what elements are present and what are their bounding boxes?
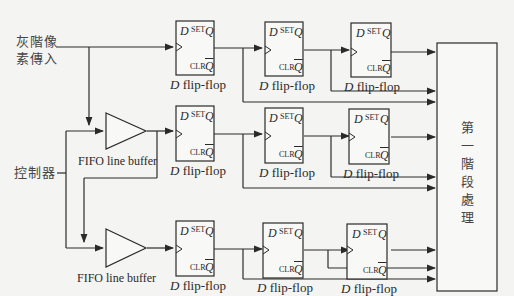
pin-clr: CLR xyxy=(279,151,295,159)
flipflop-r1-c3-label: D flip-flop xyxy=(344,80,400,93)
pin-d: D xyxy=(180,225,189,237)
flipflop-r3-c1: D SET Q CLR Q xyxy=(176,221,214,276)
pin-qbar: Q xyxy=(380,149,389,161)
pin-q: Q xyxy=(205,110,214,122)
flipflop-r2-c3: D SET Q CLR Q xyxy=(350,109,388,164)
pin-qbar: Q xyxy=(294,263,303,275)
flipflop-r1-c2: D SET Q CLR Q xyxy=(265,22,303,77)
pin-set: SET xyxy=(191,226,205,234)
pin-qbar: Q xyxy=(378,264,387,276)
pin-set: SET xyxy=(191,26,205,34)
fifo-buffer-2-shape xyxy=(106,229,146,267)
pin-set: SET xyxy=(363,229,377,237)
pin-d: D xyxy=(268,227,277,239)
pin-d: D xyxy=(352,228,361,240)
pin-qbar: Q xyxy=(382,62,391,74)
controller-label: 控制器 xyxy=(14,166,56,179)
pin-q: Q xyxy=(382,27,391,39)
fifo-buffer-1-shape xyxy=(106,113,146,149)
fifo-buffer-1-label: FIFO line buffer xyxy=(78,155,157,167)
flipflop-r2-c2-label: D flip-flop xyxy=(259,166,315,179)
flipflop-r1-c1-label: D flip-flop xyxy=(170,78,226,91)
pin-set: SET xyxy=(280,113,294,121)
flipflop-r3-c2: D SET Q CLR Q xyxy=(264,223,302,278)
flipflop-r2-c3-label: D flip-flop xyxy=(343,167,399,180)
pin-d: D xyxy=(180,25,189,37)
flipflop-r2-c1: D SET Q CLR Q xyxy=(176,106,214,161)
gray-pixel-input-label-line2: 素傳入 xyxy=(16,52,58,65)
pin-d: D xyxy=(269,112,278,124)
pin-q: Q xyxy=(205,25,214,37)
pin-clr: CLR xyxy=(190,63,206,71)
pin-set: SET xyxy=(191,111,205,119)
pin-q: Q xyxy=(294,112,303,124)
pin-q: Q xyxy=(205,225,214,237)
pin-set: SET xyxy=(367,28,381,36)
pin-d: D xyxy=(354,113,363,125)
pin-qbar: Q xyxy=(205,60,214,72)
pin-clr: CLR xyxy=(363,267,379,275)
pin-clr: CLR xyxy=(190,264,206,272)
pin-d: D xyxy=(356,27,365,39)
flipflop-r3-c3: D SET Q CLR Q xyxy=(348,224,386,279)
flipflop-r1-c2-label: D flip-flop xyxy=(259,79,315,92)
pin-set: SET xyxy=(279,228,293,236)
flipflop-r1-c1: D SET Q CLR Q xyxy=(176,21,214,76)
pin-set: SET xyxy=(280,27,294,35)
flipflop-r3-c1-label: D flip-flop xyxy=(170,279,226,292)
pin-qbar: Q xyxy=(205,146,214,158)
flipflop-r1-c3: D SET Q CLR Q xyxy=(352,23,390,78)
pin-clr: CLR xyxy=(190,149,206,157)
pin-set: SET xyxy=(365,114,379,122)
flipflop-r2-c2: D SET Q CLR Q xyxy=(265,108,303,163)
pin-clr: CLR xyxy=(365,152,381,160)
pin-clr: CLR xyxy=(279,266,295,274)
pin-q: Q xyxy=(380,113,389,125)
stage1-processing-label: 第 一 階 段 處 理 xyxy=(459,119,475,227)
pin-qbar: Q xyxy=(294,148,303,160)
pin-d: D xyxy=(269,26,278,38)
pin-d: D xyxy=(180,110,189,122)
pin-qbar: Q xyxy=(205,261,214,273)
pin-q: Q xyxy=(294,26,303,38)
pin-clr: CLR xyxy=(367,65,383,73)
gray-pixel-input-label-line1: 灰階像 xyxy=(16,35,58,48)
pin-qbar: Q xyxy=(294,61,303,73)
pin-q: Q xyxy=(294,227,303,239)
flipflop-r3-c3-label: D flip-flop xyxy=(341,282,397,295)
pin-q: Q xyxy=(378,228,387,240)
flipflop-r2-c1-label: D flip-flop xyxy=(170,164,226,177)
pin-clr: CLR xyxy=(279,64,295,72)
fifo-buffer-2-label: FIFO line buffer xyxy=(77,272,156,284)
flipflop-r3-c2-label: D flip-flop xyxy=(257,281,313,294)
